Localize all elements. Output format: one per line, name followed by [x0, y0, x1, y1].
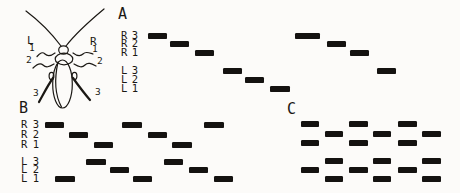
- step-bar-C-L3-2: [373, 158, 391, 164]
- step-bar-C-L1-2: [373, 176, 391, 182]
- step-bar-C-R1-1: [301, 140, 319, 146]
- step-bar-C-R2-3: [422, 131, 441, 137]
- step-bar-C-R2-2: [373, 131, 391, 137]
- step-bar-C-L2-3: [398, 167, 417, 173]
- gait-diagram-figure: LR123123 AR3R2R1L3L2L1BR3R2R1L3L2L1C: [0, 0, 460, 193]
- gait-panel-C: C: [0, 0, 460, 193]
- step-bar-C-L2-1: [301, 167, 319, 173]
- step-bar-C-R3-2: [349, 121, 368, 127]
- step-bar-C-L2-2: [349, 167, 368, 173]
- step-bar-C-R1-3: [398, 140, 417, 146]
- step-bar-C-R3-3: [398, 121, 417, 127]
- step-bar-C-L1-3: [422, 176, 441, 182]
- step-bar-C-R1-2: [349, 140, 368, 146]
- panel-letter-C: C: [287, 102, 296, 117]
- step-bar-C-L3-3: [422, 158, 441, 164]
- step-bar-C-R3-1: [301, 121, 319, 127]
- step-bar-C-R2-1: [325, 131, 343, 137]
- step-bar-C-L1-1: [325, 176, 343, 182]
- step-bar-C-L3-1: [325, 158, 343, 164]
